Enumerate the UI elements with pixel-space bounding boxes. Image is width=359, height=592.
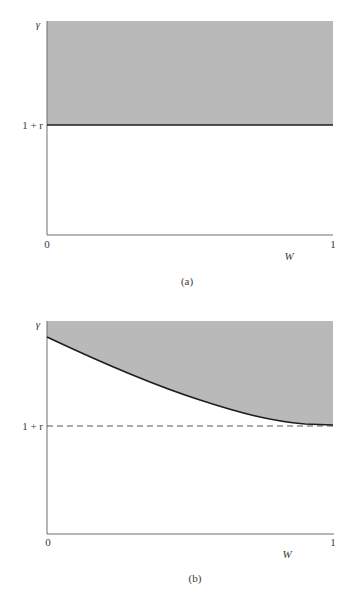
level-label-b: 1 + r [22,420,43,432]
x-tick-1-a: 1 [330,238,336,250]
caption-b: (b) [189,572,202,585]
x-axis-label-a: W [284,250,294,262]
shaded-region-b [47,321,333,425]
caption-a: (a) [181,275,194,288]
x-axis-label-b: W [282,548,292,560]
figure: γ 1 + r 0 1 W (a) γ 1 + r 0 1 W (b) [0,0,359,592]
y-axis-label-a: γ [36,18,41,30]
x-tick-0-a: 0 [44,238,50,250]
x-tick-1-b: 1 [330,536,336,548]
shaded-region-a [47,21,333,125]
panel-b: γ 1 + r 0 1 W (b) [22,318,336,585]
level-label-a: 1 + r [22,119,43,131]
x-tick-0-b: 0 [45,536,51,548]
panel-a: γ 1 + r 0 1 W (a) [22,18,336,288]
y-axis-label-b: γ [36,318,41,330]
